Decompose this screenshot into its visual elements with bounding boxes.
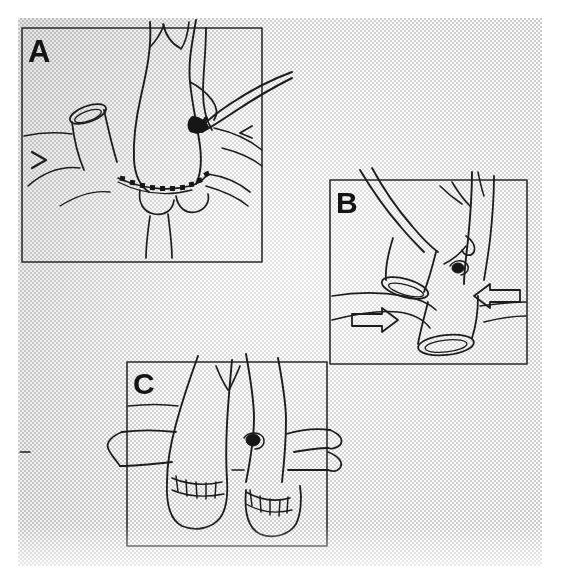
scan-halftone-background bbox=[18, 18, 542, 566]
figure-root: A B C bbox=[0, 0, 564, 583]
panel-c-label: C bbox=[133, 369, 155, 399]
panel-a-label: A bbox=[28, 36, 50, 67]
panel-b-label: B bbox=[336, 188, 358, 218]
